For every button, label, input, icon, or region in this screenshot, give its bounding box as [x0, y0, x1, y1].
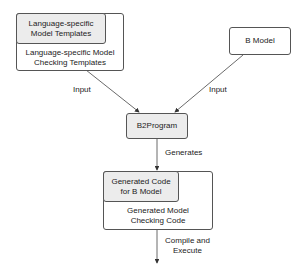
generated-checking-code-line2: Checking Code — [127, 216, 189, 226]
lang-model-templates-box: Language-specific Model Templates — [16, 13, 106, 44]
lang-checking-templates-line2: Checking Templates — [26, 58, 115, 68]
generates-label: Generates — [165, 148, 202, 158]
b2program-box: B2Program — [126, 113, 188, 139]
lang-model-templates-line1: Language-specific — [29, 19, 94, 29]
lang-checking-templates-line1: Language-specific Model — [26, 48, 115, 58]
generated-code-line1: Generated Code — [111, 177, 170, 187]
generated-checking-code-label: Generated Model Checking Code — [104, 202, 212, 230]
compile-execute-line2: Execute — [165, 246, 210, 256]
generated-code-box: Generated Code for B Model — [103, 171, 179, 202]
left-input-label: Input — [73, 85, 91, 95]
right-input-label: Input — [209, 85, 227, 95]
arrow-left-input — [86, 70, 139, 112]
generated-checking-code-line1: Generated Model — [127, 206, 189, 216]
lang-checking-templates-box: Language-specific Model Templates Langua… — [16, 13, 124, 71]
b2program-label: B2Program — [137, 121, 177, 131]
compile-execute-line1: Compile and — [165, 236, 210, 246]
generated-code-line2: for B Model — [111, 187, 170, 197]
b-model-label: B Model — [245, 36, 274, 46]
compile-execute-label: Compile and Execute — [165, 236, 210, 256]
b-model-box: B Model — [229, 27, 291, 55]
lang-model-templates-line2: Model Templates — [29, 29, 94, 39]
arrow-right-input — [175, 55, 243, 112]
generated-checking-code-box: Generated Code for B Model Generated Mod… — [103, 171, 213, 230]
lang-checking-templates-label: Language-specific Model Checking Templat… — [17, 44, 123, 71]
